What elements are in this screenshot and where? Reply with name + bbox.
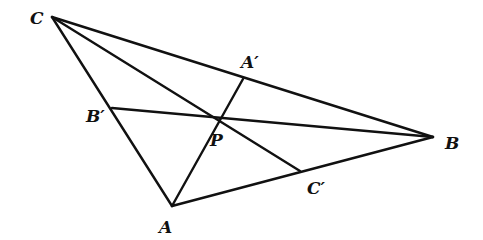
cevian-CC-prime — [52, 17, 300, 171]
label-P: P — [209, 130, 224, 150]
label-A: A — [157, 217, 172, 237]
label-C: C — [30, 8, 44, 28]
label-A-prime: A′ — [239, 52, 259, 72]
label-B-prime: B′ — [85, 106, 105, 126]
triangle-cevians-diagram: C A′ B′ P B C′ A — [0, 0, 483, 240]
label-C-prime: C′ — [307, 178, 326, 198]
label-B: B — [444, 133, 459, 153]
